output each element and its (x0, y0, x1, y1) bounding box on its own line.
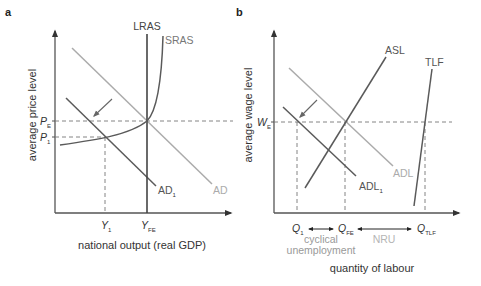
adl1-label: ADL1 (359, 180, 383, 194)
tick-yfe: YFE (141, 219, 156, 233)
ad-shift-arrow (94, 99, 112, 116)
ad-as-labour-market-diagram: a average price level national output (r… (0, 0, 481, 286)
sras-label: SRAS (165, 34, 194, 46)
panel-a-label: a (5, 6, 12, 18)
ad-curve (72, 48, 212, 184)
tick-pe: PE (40, 115, 51, 129)
ad1-label: AD1 (158, 184, 177, 198)
panel-b: b average wage level quantity of labour … (236, 6, 459, 274)
tick-qtlf: QTLF (417, 222, 436, 236)
tick-y1: Y1 (101, 219, 112, 233)
lras-label: LRAS (133, 20, 160, 32)
tick-q1: Q1 (292, 222, 304, 236)
tlf-label: TLF (425, 56, 444, 68)
tick-we: WE (257, 116, 271, 130)
y-axis-title-wage: average wage level (242, 68, 254, 163)
asl-label: ASL (385, 44, 405, 56)
asl-curve (305, 57, 386, 188)
tlf-curve (414, 69, 432, 206)
nru-label: NRU (373, 233, 396, 245)
ad-label: AD (213, 184, 228, 196)
y-axis-title-price: average price level (26, 69, 38, 161)
x-axis-title-labour: quantity of labour (330, 262, 415, 274)
adl-label: ADL (393, 167, 414, 179)
tick-p1: P1 (40, 131, 51, 145)
adl-shift-arrow (300, 100, 317, 117)
cyclical-label-line2: unemployment (287, 244, 356, 256)
x-axis-title-output: national output (real GDP) (78, 239, 206, 251)
adl-curve (289, 68, 393, 166)
panel-a: a average price level national output (r… (5, 6, 233, 251)
panel-b-label: b (236, 6, 243, 18)
tick-qfe: QFE (338, 222, 354, 236)
